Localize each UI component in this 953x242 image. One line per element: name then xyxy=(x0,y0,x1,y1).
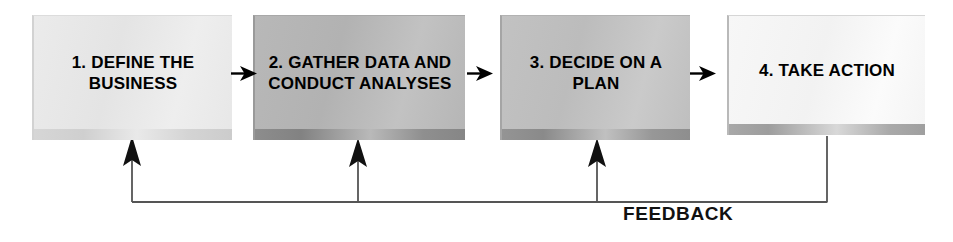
feedback-label: FEEDBACK xyxy=(623,203,733,225)
process-box-3-label: 3. DECIDE ON A PLAN xyxy=(502,53,690,94)
arrow-right-icon-box3-to-box4 xyxy=(690,63,718,83)
process-box-2-gather-data-and-conduct-analyses[interactable]: 2. GATHER DATA AND CONDUCT ANALYSES xyxy=(253,15,465,140)
process-box-4-take-action[interactable]: 4. TAKE ACTION xyxy=(727,15,925,135)
process-box-3-decide-on-a-plan[interactable]: 3. DECIDE ON A PLAN xyxy=(500,15,690,140)
process-box-4-label: 4. TAKE ACTION xyxy=(753,61,901,82)
process-flow-diagram: 1. DEFINE THE BUSINESS 2. GATHER DATA AN… xyxy=(0,0,953,242)
arrow-right-icon-box2-to-box3 xyxy=(467,63,495,83)
process-box-1-define-the-business[interactable]: 1. DEFINE THE BUSINESS xyxy=(32,15,232,140)
process-box-1-label: 1. DEFINE THE BUSINESS xyxy=(34,53,232,94)
process-box-2-label: 2. GATHER DATA AND CONDUCT ANALYSES xyxy=(255,53,465,94)
